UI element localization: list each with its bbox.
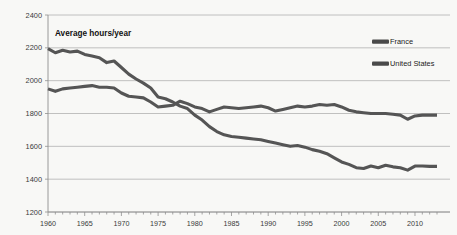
- x-tick-label-1985: 1985: [223, 219, 239, 228]
- series-line-united-states: [48, 86, 437, 120]
- x-tick-label-1975: 1975: [150, 219, 166, 228]
- y-tick-label-1400: 1400: [26, 175, 42, 184]
- y-axis-tick-labels: 1200140016001800200022002400: [26, 11, 42, 217]
- y-tick-label-1800: 1800: [26, 109, 42, 118]
- x-tick-label-1980: 1980: [187, 219, 203, 228]
- y-axis-title: Average hours/year: [55, 29, 132, 38]
- legend-swatch-france: [372, 40, 389, 44]
- y-axis: [45, 15, 48, 212]
- x-tick-label-1960: 1960: [40, 219, 56, 228]
- x-tick-label-2005: 2005: [370, 219, 386, 228]
- x-tick-label-2010: 2010: [407, 219, 423, 228]
- x-tick-label-1995: 1995: [297, 219, 313, 228]
- x-tick-label-1970: 1970: [113, 219, 129, 228]
- x-tick-label-1965: 1965: [77, 219, 93, 228]
- line-chart: 1200140016001800200022002400 19601965197…: [0, 0, 457, 235]
- y-tick-label-1600: 1600: [26, 142, 42, 151]
- x-axis: [48, 212, 450, 216]
- y-tick-label-2200: 2200: [26, 43, 42, 52]
- legend-swatch-united-states: [372, 62, 389, 66]
- chart-legend: FranceUnited States: [372, 37, 435, 68]
- chart-container: 1200140016001800200022002400 19601965197…: [0, 0, 457, 235]
- data-series: [48, 49, 437, 170]
- legend-label-france: France: [390, 37, 413, 46]
- x-tick-label-2000: 2000: [334, 219, 350, 228]
- x-axis-tick-labels: 1960196519701975198019851990199520002005…: [40, 219, 423, 228]
- y-tick-label-1200: 1200: [26, 208, 42, 217]
- plot-annotation: Average hours/year: [55, 29, 132, 38]
- y-tick-label-2000: 2000: [26, 76, 42, 85]
- legend-label-united-states: United States: [390, 59, 435, 68]
- y-tick-label-2400: 2400: [26, 11, 42, 20]
- x-tick-label-1990: 1990: [260, 219, 276, 228]
